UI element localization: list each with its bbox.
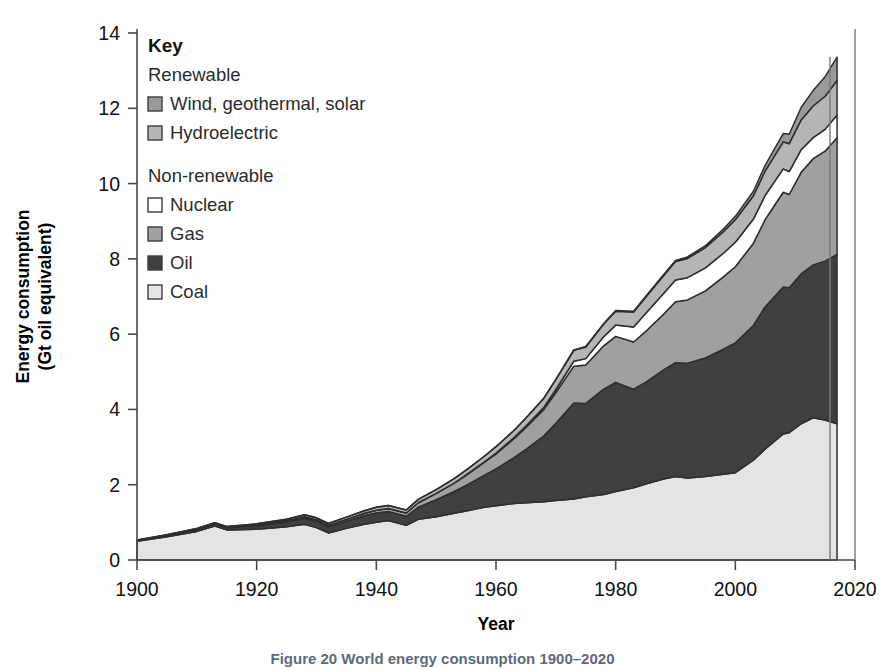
legend-swatch-gas — [148, 227, 162, 241]
legend-group-non-renewable: Non-renewable — [148, 165, 273, 186]
legend-swatch-hydroelectric — [148, 126, 162, 140]
legend-swatch-oil — [148, 256, 162, 270]
legend-item-hydroelectric[interactable]: Hydroelectric — [148, 122, 278, 143]
legend-swatch-coal — [148, 285, 162, 299]
legend-item-nuclear[interactable]: Nuclear — [148, 194, 234, 215]
legend-label-nuclear: Nuclear — [170, 194, 234, 215]
figure-container: 024681012141900192019401960198020002020Y… — [0, 0, 885, 670]
x-tick-label-1980: 1980 — [594, 578, 638, 600]
legend-title: Key — [148, 35, 183, 56]
x-tick-label-1940: 1940 — [355, 578, 399, 600]
y-tick-label-4: 4 — [109, 398, 120, 420]
y-tick-label-12: 12 — [98, 97, 120, 119]
y-tick-label-2: 2 — [109, 474, 120, 496]
legend-label-wind-geothermal-solar: Wind, geothermal, solar — [170, 93, 365, 114]
y-tick-label-0: 0 — [109, 549, 120, 571]
x-tick-label-2000: 2000 — [714, 578, 758, 600]
legend-label-hydroelectric: Hydroelectric — [170, 122, 278, 143]
legend-item-wind-geothermal-solar[interactable]: Wind, geothermal, solar — [148, 93, 365, 114]
legend-item-coal[interactable]: Coal — [148, 281, 208, 302]
legend-label-gas: Gas — [170, 223, 204, 244]
x-tick-label-2020: 2020 — [833, 578, 877, 600]
x-tick-label-1920: 1920 — [235, 578, 279, 600]
x-tick-label-1960: 1960 — [474, 578, 518, 600]
y-tick-label-10: 10 — [98, 173, 120, 195]
y-tick-label-8: 8 — [109, 248, 120, 270]
y-axis-title: Energy consumption(Gt oil equivalent) — [13, 209, 55, 383]
y-axis-title-line2: (Gt oil equivalent) — [35, 223, 55, 371]
legend-label-oil: Oil — [170, 252, 193, 273]
figure-caption: Figure 20 World energy consumption 1900–… — [0, 650, 885, 667]
chart-legend: KeyRenewableWind, geothermal, solarHydro… — [148, 35, 365, 302]
y-tick-label-6: 6 — [109, 323, 120, 345]
legend-swatch-wind-geothermal-solar — [148, 97, 162, 111]
legend-label-coal: Coal — [170, 281, 208, 302]
x-axis-title: Year — [478, 614, 515, 634]
energy-consumption-chart: 024681012141900192019401960198020002020Y… — [0, 0, 885, 670]
legend-item-oil[interactable]: Oil — [148, 252, 193, 273]
legend-swatch-nuclear — [148, 198, 162, 212]
y-tick-label-14: 14 — [98, 22, 120, 44]
y-axis-title-line1: Energy consumption — [13, 209, 33, 383]
legend-item-gas[interactable]: Gas — [148, 223, 204, 244]
x-tick-label-1900: 1900 — [115, 578, 159, 600]
legend-group-renewable: Renewable — [148, 64, 241, 85]
